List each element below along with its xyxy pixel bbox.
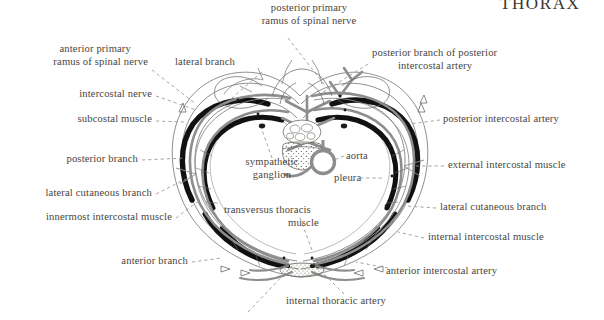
label-lateral-cutaneous-branch-right: lateral cutaneous branch xyxy=(440,201,547,213)
label-lateral-cutaneous-branch-left: lateral cutaneous branch xyxy=(0,187,152,199)
leader-sympathetic-ganglion xyxy=(262,130,272,158)
label-internal-intercostal-muscle: internal intercostal muscle xyxy=(428,231,544,243)
page-title: THORAX xyxy=(500,0,580,14)
leader-subcostal-muscle xyxy=(156,121,184,122)
figure-canvas: THORAX posterior primary ramus of spinal… xyxy=(0,0,604,320)
leader-posterior-primary-ramus xyxy=(288,38,330,92)
label-posterior-primary-ramus-line1: posterior primary xyxy=(234,2,384,14)
leader-anterior-branch xyxy=(192,258,222,262)
label-innermost-intercostal-muscle: innermost intercostal muscle xyxy=(0,211,172,223)
leader-anterior-intercostal-artery xyxy=(356,262,388,268)
label-transversus-thoracis-line1: transversus thoracis xyxy=(224,204,311,216)
label-internal-thoracic-artery: internal thoracic artery xyxy=(286,295,386,307)
label-anterior-intercostal-artery: anterior intercostal artery xyxy=(386,265,497,277)
label-anterior-primary-ramus-line1: anterior primary xyxy=(0,43,131,55)
label-lateral-branch: lateral branch xyxy=(175,56,235,68)
label-posterior-branch-pia-line2: intercostal artery xyxy=(398,60,472,72)
label-posterior-branch-pia-line1: posterior branch of posterior xyxy=(372,47,497,59)
leader-innermost-intercostal-muscle xyxy=(176,200,200,218)
leader-posterior-intercostal-artery xyxy=(410,120,440,124)
label-pleura: pleura xyxy=(334,172,361,184)
label-posterior-primary-ramus-line2: ramus of spinal nerve xyxy=(234,15,384,27)
leader-internal-thoracic-artery xyxy=(322,272,344,294)
label-intercostal-nerve: intercostal nerve xyxy=(0,88,152,100)
label-posterior-branch: posterior branch xyxy=(0,153,138,165)
label-subcostal-muscle: subcostal muscle xyxy=(0,113,152,125)
leader-lateral-branch xyxy=(232,72,262,98)
leader-aorta xyxy=(334,156,344,160)
leader-internal-intercostal-muscle xyxy=(398,232,424,238)
leader-lateral-cutaneous-branch-right xyxy=(406,206,436,208)
label-anterior-primary-ramus-line2: ramus of spinal nerve xyxy=(0,56,148,68)
label-posterior-intercostal-artery: posterior intercostal artery xyxy=(443,113,559,125)
leader-anterior-primary-ramus xyxy=(152,70,196,104)
label-sympathetic-ganglion-line2: ganglion xyxy=(216,169,328,181)
label-aorta: aorta xyxy=(346,150,368,162)
leader-posterior-branch-pia xyxy=(320,64,368,94)
leader-intercostal-nerve xyxy=(156,96,196,110)
leader-lateral-cutaneous-branch-left xyxy=(156,176,192,194)
label-external-intercostal-muscle: external intercostal muscle xyxy=(448,159,566,171)
label-transversus-thoracis-line2: muscle xyxy=(288,217,319,229)
leader-posterior-branch xyxy=(142,158,186,160)
label-sympathetic-ganglion-line1: sympathetic xyxy=(216,156,328,168)
label-anterior-branch: anterior branch xyxy=(0,255,188,267)
